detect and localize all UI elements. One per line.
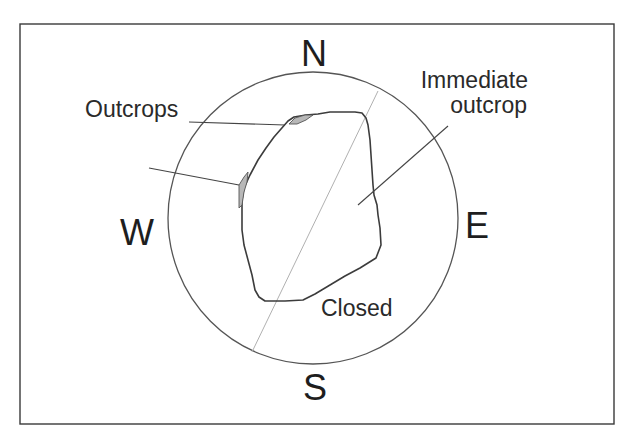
south-label: S [303, 367, 327, 408]
sky-opening-outline [242, 112, 381, 301]
horizon-circle [168, 72, 458, 364]
outcrop-north [289, 115, 313, 124]
immediate-outcrop-label-line1: Immediate [421, 67, 528, 93]
outcrop-west [239, 172, 248, 208]
closed-label: Closed [321, 295, 393, 321]
west-label: W [120, 212, 154, 253]
immediate-outcrop-label-line2: outcrop [450, 92, 527, 118]
outcrops-leader-left [149, 168, 239, 185]
north-label: N [301, 33, 327, 74]
sky-view-diagram: N S W E Outcrops Immediate outcrop Close… [0, 0, 623, 432]
outcrops-leader-top [189, 122, 285, 125]
east-label: E [465, 205, 489, 246]
outcrops-label: Outcrops [85, 96, 178, 122]
